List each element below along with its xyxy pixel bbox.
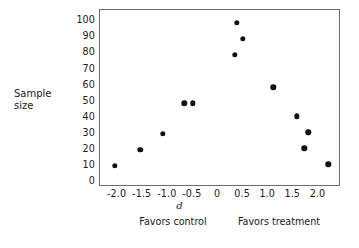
y-tick-label: 0 (49, 176, 95, 186)
plot-frame (99, 9, 340, 186)
plot-area (100, 10, 339, 185)
x-tick-label: -2.0 (107, 187, 126, 200)
x-tick-label: 1.0 (259, 187, 275, 200)
y-tick-label: 90 (49, 31, 95, 41)
y-axis-tick-labels: 0102030405060708090100 (47, 9, 95, 186)
y-tick-label: 70 (49, 64, 95, 74)
y-tick-label: 10 (49, 160, 95, 170)
x-axis-tick-labels: -2.0-1.5-1.0-0.500.51.01.52.0 (99, 187, 340, 201)
y-tick-label: 80 (49, 47, 95, 57)
x-tick-label: -1.0 (157, 187, 176, 200)
data-point (240, 36, 245, 41)
y-tick-label: 100 (49, 15, 95, 25)
data-point (302, 146, 307, 151)
y-tick-label: 30 (49, 128, 95, 138)
annotation-favors-control: Favors control (139, 216, 206, 228)
x-tick-label: -0.5 (182, 187, 201, 200)
data-point (137, 147, 142, 152)
data-point (112, 163, 117, 168)
annotation-favors-treatment: Favors treatment (238, 216, 320, 228)
data-point (306, 130, 311, 135)
y-tick-label: 50 (49, 96, 95, 106)
scatter-plot-figure: Sample size 0102030405060708090100 -2.0-… (0, 0, 359, 248)
x-tick-label: -1.5 (132, 187, 151, 200)
data-point (190, 101, 195, 106)
y-tick-label: 60 (49, 80, 95, 90)
data-point (271, 85, 276, 90)
data-point (326, 162, 331, 167)
x-tick-label: 1.5 (285, 187, 301, 200)
data-point (182, 101, 187, 106)
y-tick-label: 20 (49, 144, 95, 154)
x-axis-title: d (0, 200, 359, 211)
data-point (234, 20, 239, 25)
data-point (294, 113, 299, 118)
x-tick-label: 0 (214, 187, 220, 200)
y-tick-label: 40 (49, 112, 95, 122)
data-point (160, 131, 165, 136)
data-point (232, 52, 237, 57)
x-tick-label: 0.5 (234, 187, 250, 200)
x-tick-label: 2.0 (310, 187, 326, 200)
